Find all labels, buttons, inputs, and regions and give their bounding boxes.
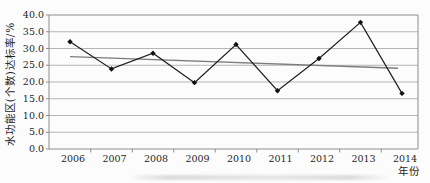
svg-text:5.0: 5.0 [29,126,44,137]
scan-artifact-smudge [128,175,390,180]
svg-text:20.0: 20.0 [23,76,44,87]
svg-text:35.0: 35.0 [23,26,44,37]
svg-text:2006: 2006 [61,153,85,164]
svg-text:25.0: 25.0 [23,59,44,70]
svg-text:15.0: 15.0 [23,93,44,104]
svg-text:2009: 2009 [185,153,209,164]
line-chart: 0.05.010.015.020.025.030.035.040.0200620… [0,0,430,183]
y-axis-title: 水功能区(个数)达标率/% [2,22,17,147]
svg-text:2012: 2012 [310,153,334,164]
svg-text:2010: 2010 [227,153,251,164]
x-axis-title: 年份 [398,163,420,178]
line-chart-canvas: 0.05.010.015.020.025.030.035.040.0200620… [0,0,430,183]
svg-text:0.0: 0.0 [29,143,44,154]
svg-text:40.0: 40.0 [23,9,44,20]
svg-text:2013: 2013 [351,153,375,164]
svg-text:10.0: 10.0 [23,110,44,121]
svg-text:2011: 2011 [268,153,292,164]
svg-text:2007: 2007 [102,153,126,164]
svg-text:30.0: 30.0 [23,43,44,54]
svg-text:2008: 2008 [144,153,168,164]
